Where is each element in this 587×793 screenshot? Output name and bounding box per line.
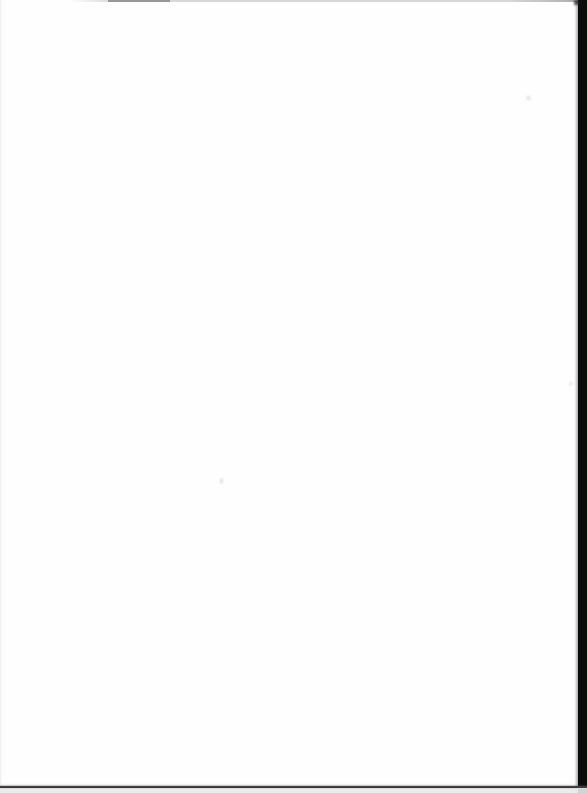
dust-speck xyxy=(526,96,531,100)
left-edge-scan-line xyxy=(0,0,2,793)
bottom-margin-strip xyxy=(0,788,587,793)
scanned-blank-page xyxy=(0,0,587,793)
dust-speck xyxy=(220,478,223,484)
top-edge-scan-line xyxy=(0,0,578,2)
dust-speck xyxy=(569,381,572,386)
top-edge-smudge xyxy=(108,0,170,2)
right-edge-top-wedge xyxy=(574,0,580,5)
right-edge-black-bar xyxy=(578,0,587,793)
